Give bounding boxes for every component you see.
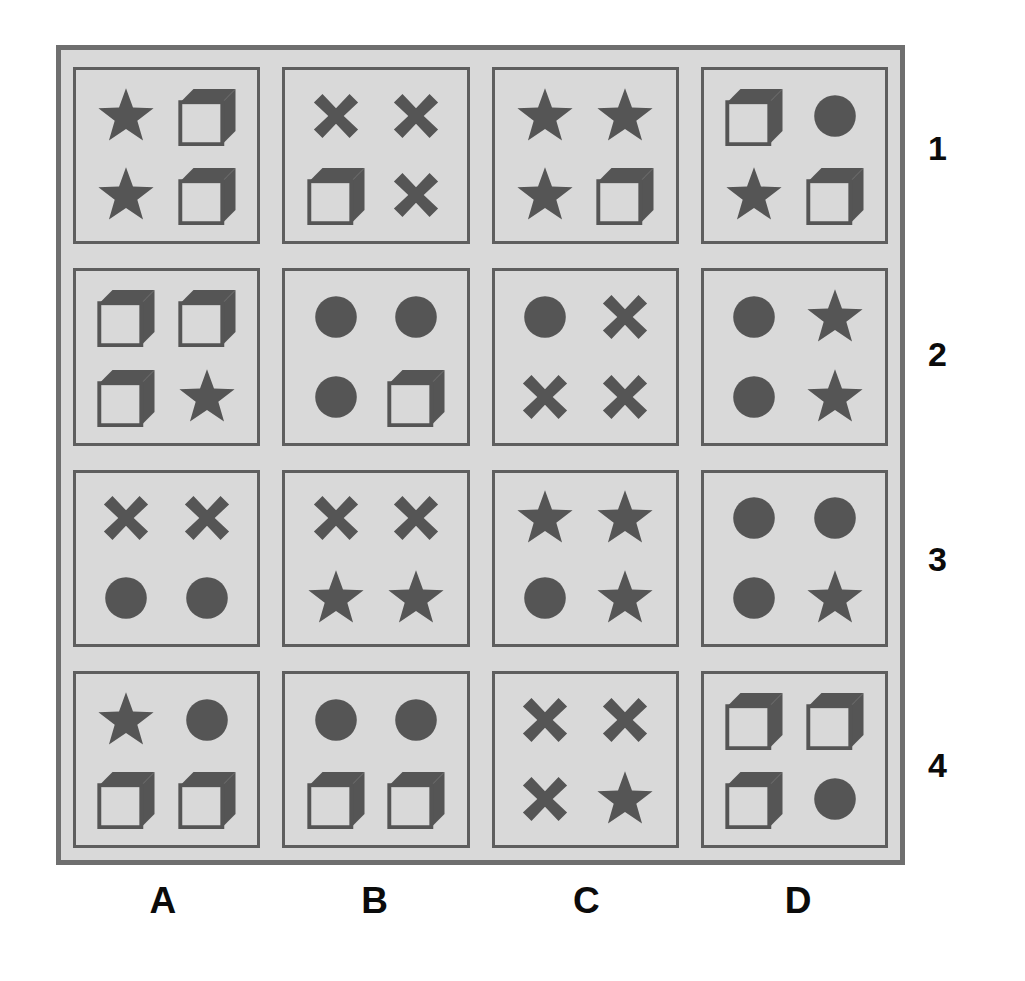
shape-slot-3 [295,156,376,236]
cube-square-icon [96,367,156,427]
shape-slot-2 [167,479,248,559]
shape-slot-4 [167,558,248,638]
shape-slot-2 [794,479,875,559]
x-cross-icon [519,371,571,423]
filled-circle-icon [728,572,780,624]
star-icon [97,166,155,224]
shape-slot-1 [714,680,795,760]
cube-square-icon [177,86,237,146]
shape-slot-2 [376,479,457,559]
shape-slot-2 [585,680,666,760]
x-cross-icon [390,90,442,142]
cube-square-icon [177,287,237,347]
row-label-3: 3 [928,542,974,576]
shape-grid [61,50,900,860]
shape-slot-3 [505,558,586,638]
shape-slot-1 [505,680,586,760]
grid-cell-d4[interactable] [701,671,888,848]
x-cross-icon [599,371,651,423]
filled-circle-icon [728,371,780,423]
shape-slot-1 [295,479,376,559]
shape-slot-3 [714,558,795,638]
filled-circle-icon [809,492,861,544]
shape-slot-4 [585,156,666,236]
shape-slot-2 [167,277,248,357]
grid-cell-b1[interactable] [282,67,469,244]
shape-slot-4 [376,759,457,839]
shape-slot-4 [585,759,666,839]
shape-slot-1 [505,277,586,357]
shape-slot-3 [714,357,795,437]
cube-square-icon [306,165,366,225]
filled-circle-icon [100,572,152,624]
grid-cell-c4[interactable] [492,671,679,848]
grid-cell-a1[interactable] [73,67,260,244]
x-cross-icon [599,291,651,343]
shape-slot-4 [794,558,875,638]
puzzle-panel [56,45,905,865]
cube-square-icon [306,769,366,829]
shape-slot-2 [376,680,457,760]
shape-slot-1 [505,479,586,559]
grid-cell-a2[interactable] [73,268,260,445]
shape-slot-1 [714,277,795,357]
shape-slot-2 [585,76,666,156]
filled-circle-icon [181,572,233,624]
cube-square-icon [595,165,655,225]
shape-slot-1 [86,479,167,559]
shape-slot-4 [794,156,875,236]
star-icon [387,569,445,627]
star-icon [806,368,864,426]
shape-slot-3 [86,759,167,839]
cube-square-icon [724,769,784,829]
shape-slot-3 [505,759,586,839]
star-icon [596,770,654,828]
grid-cell-b3[interactable] [282,470,469,647]
filled-circle-icon [728,291,780,343]
grid-cell-d3[interactable] [701,470,888,647]
row-label-4: 4 [928,748,974,782]
grid-cell-c2[interactable] [492,268,679,445]
shape-slot-2 [794,277,875,357]
filled-circle-icon [519,291,571,343]
grid-cell-b4[interactable] [282,671,469,848]
shape-slot-4 [376,558,457,638]
shape-slot-3 [295,558,376,638]
star-icon [725,166,783,224]
cube-square-icon [177,769,237,829]
x-cross-icon [100,492,152,544]
shape-slot-4 [167,759,248,839]
filled-circle-icon [809,90,861,142]
x-cross-icon [599,694,651,746]
grid-cell-d1[interactable] [701,67,888,244]
shape-slot-4 [585,558,666,638]
grid-cell-a4[interactable] [73,671,260,848]
column-label-d: D [703,882,893,919]
star-icon [97,691,155,749]
shape-slot-2 [585,479,666,559]
filled-circle-icon [310,694,362,746]
filled-circle-icon [519,572,571,624]
shape-slot-2 [794,76,875,156]
grid-cell-c3[interactable] [492,470,679,647]
x-cross-icon [390,492,442,544]
grid-cell-a3[interactable] [73,470,260,647]
filled-circle-icon [728,492,780,544]
filled-circle-icon [390,694,442,746]
shape-slot-3 [86,156,167,236]
x-cross-icon [310,492,362,544]
shape-slot-1 [295,277,376,357]
cube-square-icon [805,690,865,750]
shape-slot-2 [167,680,248,760]
grid-cell-b2[interactable] [282,268,469,445]
cube-square-icon [724,86,784,146]
shape-slot-1 [86,76,167,156]
x-cross-icon [310,90,362,142]
column-label-c: C [492,882,682,919]
shape-slot-4 [167,357,248,437]
star-icon [516,489,574,547]
grid-cell-d2[interactable] [701,268,888,445]
star-icon [806,288,864,346]
grid-cell-c1[interactable] [492,67,679,244]
shape-slot-3 [86,558,167,638]
